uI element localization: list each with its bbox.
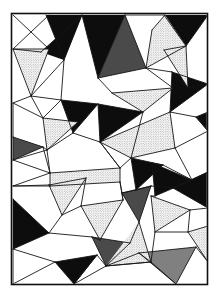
artwork-canvas (0, 0, 220, 297)
tessellation-drawing (0, 0, 220, 297)
